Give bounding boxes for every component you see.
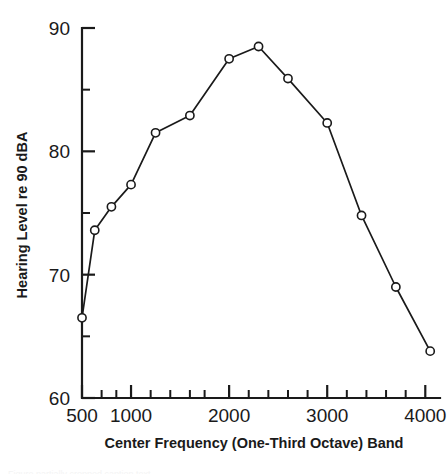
data-series-line: [82, 47, 430, 352]
x-axis-tick-labels: 5001000200030004000: [66, 405, 446, 426]
y-tick-label-70: 70: [49, 265, 70, 286]
data-point-1250hz: [151, 129, 159, 137]
data-point-1600hz: [186, 111, 194, 119]
x-tick-label-4000: 4000: [404, 405, 446, 426]
data-point-4050hz: [426, 347, 434, 355]
x-tick-label-500: 500: [66, 405, 98, 426]
figure-container: 60708090 5001000200030004000 Hearing Lev…: [0, 0, 448, 474]
data-point-800hz: [107, 203, 115, 211]
hearing-level-line-chart: 60708090 5001000200030004000 Hearing Lev…: [0, 0, 448, 474]
cropped-caption-sliver: Figure partially cropped caption text: [8, 470, 298, 474]
data-point-2600hz: [284, 74, 292, 82]
x-axis-ticks: [82, 385, 425, 398]
data-point-630hz: [91, 226, 99, 234]
y-tick-label-90: 90: [49, 18, 70, 39]
data-point-2300hz: [254, 42, 262, 50]
x-tick-label-3000: 3000: [306, 405, 348, 426]
data-point-3350hz: [357, 211, 365, 219]
y-axis-ticks: [82, 28, 95, 398]
data-point-2000hz: [225, 55, 233, 63]
data-point-3700hz: [392, 283, 400, 291]
data-point-markers: [78, 42, 434, 355]
data-point-3000hz: [323, 119, 331, 127]
data-point-1000hz: [127, 181, 135, 189]
y-axis-title: Hearing Level re 90 dBA: [14, 131, 30, 298]
y-axis-tick-labels: 60708090: [49, 18, 70, 409]
y-tick-label-80: 80: [49, 141, 70, 162]
data-point-500hz: [78, 314, 86, 322]
x-axis-title: Center Frequency (One-Third Octave) Band: [105, 435, 404, 451]
x-tick-label-1000: 1000: [110, 405, 152, 426]
x-tick-label-2000: 2000: [208, 405, 250, 426]
axes-group: [82, 28, 440, 398]
